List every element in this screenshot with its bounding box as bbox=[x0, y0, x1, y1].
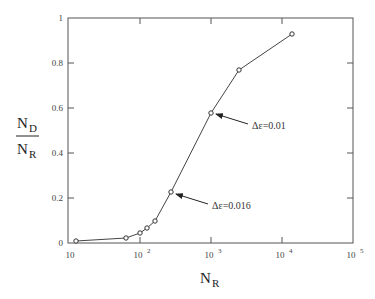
data-point bbox=[290, 32, 294, 36]
svg-text:3: 3 bbox=[218, 247, 222, 255]
x-tick-labels: 10 10 2 10 3 10 4 10 5 bbox=[66, 247, 365, 260]
svg-text:2: 2 bbox=[147, 247, 151, 255]
data-series-line bbox=[76, 34, 292, 241]
svg-text:R: R bbox=[212, 277, 220, 289]
annotation-de-001: Δε=0.01 bbox=[216, 114, 286, 131]
svg-text:0.2: 0.2 bbox=[52, 193, 63, 203]
x-axis-title: N R bbox=[200, 270, 220, 289]
y-ticks bbox=[68, 63, 353, 198]
svg-text:Δε=0.01: Δε=0.01 bbox=[252, 120, 286, 131]
annotation-de-0016: Δε=0.016 bbox=[176, 194, 251, 211]
data-point bbox=[138, 231, 142, 235]
svg-text:N: N bbox=[17, 141, 28, 157]
data-point bbox=[153, 219, 157, 223]
svg-text:N: N bbox=[200, 270, 211, 286]
svg-text:D: D bbox=[29, 122, 37, 134]
svg-text:10: 10 bbox=[134, 250, 144, 260]
chart: 0 0.2 0.4 0.6 0.8 1 10 10 2 10 3 10 4 10… bbox=[0, 0, 375, 299]
data-point bbox=[74, 239, 78, 243]
data-point bbox=[145, 226, 149, 230]
plot-frame bbox=[68, 18, 353, 243]
svg-text:10: 10 bbox=[276, 250, 286, 260]
y-tick-labels: 0 0.2 0.4 0.6 0.8 1 bbox=[52, 13, 64, 248]
svg-text:R: R bbox=[29, 148, 37, 160]
svg-text:4: 4 bbox=[289, 247, 293, 255]
data-point bbox=[124, 236, 128, 240]
svg-text:0.8: 0.8 bbox=[52, 58, 64, 68]
svg-text:10: 10 bbox=[66, 250, 76, 260]
svg-text:10: 10 bbox=[205, 250, 215, 260]
svg-text:Δε=0.016: Δε=0.016 bbox=[212, 200, 251, 211]
data-point bbox=[209, 111, 213, 115]
data-point bbox=[169, 190, 173, 194]
svg-text:0: 0 bbox=[59, 238, 64, 248]
data-point bbox=[237, 68, 241, 72]
svg-text:N: N bbox=[17, 115, 28, 131]
svg-text:1: 1 bbox=[59, 13, 64, 23]
y-axis-title: N D N R bbox=[16, 115, 39, 160]
svg-text:5: 5 bbox=[360, 247, 364, 255]
svg-text:0.6: 0.6 bbox=[52, 103, 64, 113]
svg-text:10: 10 bbox=[347, 250, 357, 260]
data-markers bbox=[74, 32, 294, 243]
svg-text:0.4: 0.4 bbox=[52, 148, 64, 158]
